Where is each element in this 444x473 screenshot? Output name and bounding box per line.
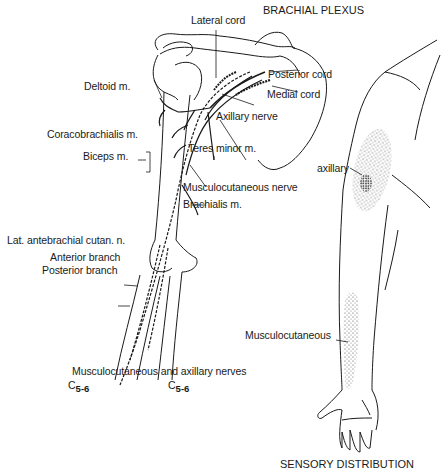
label-biceps: Biceps m. — [83, 151, 128, 162]
label-axillary-nerve: Axillary nerve — [216, 111, 278, 122]
label-musculocutaneous-nerve: Musculocutaneous nerve — [183, 182, 298, 193]
label-posterior-branch: Posterior branch — [42, 265, 117, 276]
segment-label-right: C5-6 — [168, 380, 189, 394]
body-outline-drawing — [318, 40, 440, 452]
label-coracobrachialis: Coracobrachialis m. — [47, 129, 138, 140]
label-brachialis: Brachialis m. — [183, 199, 242, 210]
sensory-distribution-title: SENSORY DISTRIBUTION — [280, 459, 414, 470]
figure-caption: Musculocutaneous and axillary nerves — [72, 366, 246, 377]
brachial-plexus-title: BRACHIAL PLEXUS — [263, 5, 364, 16]
musculocutaneous-sensory-zone — [344, 293, 359, 389]
axillary-autonomous-zone — [360, 174, 372, 192]
segment-label-left: C5-6 — [68, 380, 89, 394]
label-lat-antebrachial: Lat. antebrachial cutan. n. — [7, 235, 125, 246]
label-lateral-cord: Lateral cord — [191, 15, 245, 26]
label-anterior-branch: Anterior branch — [50, 252, 120, 263]
label-posterior-cord: Posterior cord — [268, 69, 332, 80]
label-teres-minor: Teres minor m. — [188, 143, 256, 154]
label-deltoid: Deltoid m. — [84, 81, 130, 92]
label-sensory-axillary: axillary — [317, 163, 349, 174]
label-sensory-musculocutaneous: Musculocutaneous — [245, 330, 331, 341]
label-medial-cord: Medial cord — [267, 89, 320, 100]
